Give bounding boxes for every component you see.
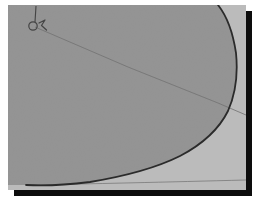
figure-plate [8, 5, 246, 190]
diagram-canvas [8, 5, 246, 190]
figure-root [0, 0, 265, 205]
scan-grain-overlay [8, 5, 246, 190]
